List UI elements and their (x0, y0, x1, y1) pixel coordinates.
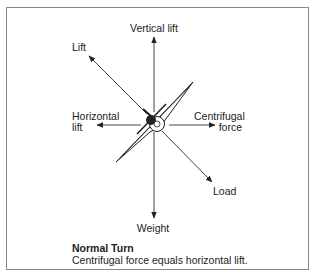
caption-title: Normal Turn (72, 242, 248, 254)
lift-arrow (89, 56, 147, 114)
lift-label: Lift (72, 42, 86, 53)
horizontal-lift-label-line2: lift (72, 122, 83, 133)
centrifugal-force-label-line2: force (194, 122, 242, 133)
load-label: Load (213, 186, 236, 197)
figure-caption: Normal Turn Centrifugal force equals hor… (72, 242, 248, 266)
caption-text: Centrifugal force equals horizontal lift… (72, 254, 248, 266)
weight-label: Weight (137, 223, 170, 234)
vertical-lift-label: Vertical lift (130, 23, 178, 34)
load-arrow (162, 131, 212, 182)
force-vector-diagram (0, 0, 317, 277)
